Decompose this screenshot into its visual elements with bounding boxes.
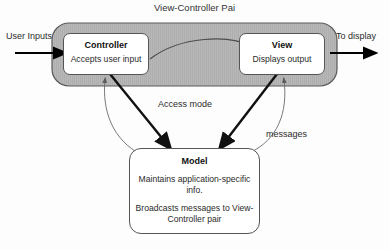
model-node-description-secondary: Broadcasts messages to View-Controller p… — [130, 203, 259, 224]
view-node-title: View — [240, 40, 324, 50]
view-node-description: Displays output — [240, 54, 324, 64]
model-to-view-arrow — [249, 80, 285, 153]
access-mode-label: Access mode — [158, 99, 212, 109]
controller-node-title: Controller — [64, 40, 148, 50]
view-node: View Displays output — [239, 33, 325, 75]
user-inputs-label: User Inputs — [6, 31, 52, 41]
model-node-title: Model — [130, 156, 259, 166]
controller-node-description: Accepts user input — [64, 54, 148, 64]
model-node-description-primary: Maintains application-specific info. — [130, 174, 259, 195]
controller-node: Controller Accepts user input — [63, 33, 149, 75]
model-node: Model Maintains application-specific inf… — [129, 148, 260, 234]
diagram-title: View-Controller Pai — [0, 3, 389, 14]
mvc-diagram: View-Controller Pai User Inputs To displ… — [0, 0, 389, 250]
messages-label: messages — [266, 129, 307, 139]
to-display-label: To display — [336, 31, 376, 41]
